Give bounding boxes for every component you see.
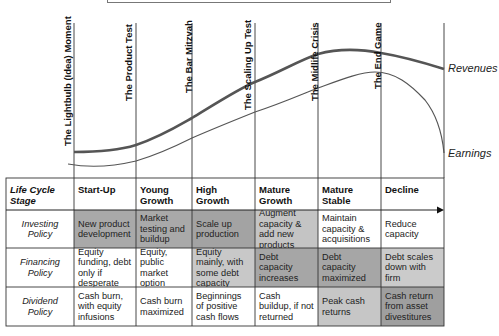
investing-young-growth: Market testing and buildup (136, 210, 192, 248)
dividend-start-up: Cash burn, with equity infusions (74, 287, 136, 326)
financing-young-growth: Equity, public market option (136, 248, 192, 287)
financing-mature-stable: Debt capacity maximized (318, 248, 381, 287)
stage-young-growth: Young Growth (136, 178, 192, 210)
financing-decline: Debt scales down with firm (381, 248, 444, 287)
investing-high-growth: Scale up production (192, 210, 255, 248)
dividend-decline: Cash return from asset divestitures (381, 287, 444, 326)
stage-header: Life Cycle Stage (6, 178, 74, 210)
dividend-high-growth: Beginnings of positive cash flows (192, 287, 255, 326)
policy-table: Life Cycle Stage Start-Up Young Growth H… (0, 0, 499, 336)
dividend-young-growth: Cash burn maximized (136, 287, 192, 326)
investing-mature-stable: Maintain capacity & acquisitions (318, 210, 381, 248)
financing-start-up: Equity funding, debt only if desperate (74, 248, 136, 287)
investing-start-up: New product development (74, 210, 136, 248)
row-label-dividend: Dividend Policy (6, 287, 74, 326)
stage-mature-growth: Mature Growth (255, 178, 318, 210)
dividend-mature-stable: Peak cash returns (318, 287, 381, 326)
financing-mature-growth: Debt capacity increases (255, 248, 318, 287)
row-label-investing: Investing Policy (6, 210, 74, 248)
stage-mature-stable: Mature Stable (318, 178, 381, 210)
stage-start-up: Start-Up (74, 178, 136, 210)
row-label-financing: Financing Policy (6, 248, 74, 287)
stage-high-growth: High Growth (192, 178, 255, 210)
stage-decline: Decline (381, 178, 444, 210)
dividend-mature-growth: Cash buildup, if not returned (255, 287, 318, 326)
investing-mature-growth: Augment capacity & add new products (255, 210, 318, 248)
financing-high-growth: Equity mainly, with some debt capacity (192, 248, 255, 287)
investing-decline: Reduce capacity (381, 210, 444, 248)
